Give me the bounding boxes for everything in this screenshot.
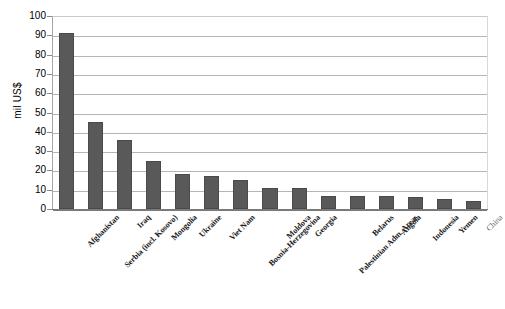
- y-axis-tick-label: 30: [14, 146, 46, 156]
- bar: [350, 196, 365, 210]
- y-axis-title: mil US$: [12, 66, 23, 136]
- x-axis-label: Yemen: [457, 213, 480, 236]
- x-axis-label: China: [485, 213, 505, 233]
- bars-container: [52, 16, 488, 209]
- bar: [408, 197, 423, 209]
- y-axis-tick-label: 0: [14, 204, 46, 214]
- bar: [117, 140, 132, 209]
- bar-chart: mil US$ 1009080706050403020100 Afghanist…: [0, 0, 505, 309]
- x-axis-label: Viet Nam: [227, 213, 256, 242]
- x-axis-label: Serbia (incl. Kosovo): [122, 213, 179, 270]
- y-axis-tick-label: 90: [14, 30, 46, 40]
- bar: [88, 122, 103, 209]
- bar: [292, 188, 307, 209]
- bar: [204, 176, 219, 209]
- x-axis-label: Iraq: [135, 213, 152, 230]
- bar: [175, 174, 190, 209]
- bar: [233, 180, 248, 209]
- bar: [262, 188, 277, 209]
- x-axis-label: Angola: [399, 213, 423, 237]
- bar: [379, 196, 394, 210]
- bar: [146, 161, 161, 209]
- x-axis-label: Bosnia-Herzegovina: [267, 213, 322, 268]
- x-axis-label: Afghanistan: [85, 213, 121, 249]
- y-axis-tick-label: 10: [14, 185, 46, 195]
- y-axis-tick-label: 80: [14, 50, 46, 60]
- y-axis-tick-label: 100: [14, 11, 46, 21]
- x-axis-label: Ukraine: [197, 213, 223, 239]
- y-axis-tick-label: 20: [14, 165, 46, 175]
- bar: [437, 199, 452, 209]
- bar: [466, 201, 481, 209]
- bar: [321, 196, 336, 210]
- bar: [59, 33, 74, 209]
- x-axis-category-labels: AfghanistanSerbia (incl. Kosovo)IraqMong…: [52, 209, 488, 309]
